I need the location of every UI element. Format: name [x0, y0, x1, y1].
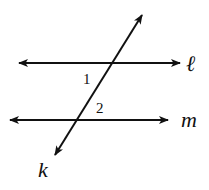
angle-2-label: 2	[96, 100, 104, 116]
line-l-label: ℓ	[186, 51, 196, 76]
transversal-k	[55, 15, 142, 155]
line-k-label: k	[38, 157, 49, 182]
parallel-lines-diagram: 1 2 ℓ m k	[0, 0, 209, 190]
angle-1-label: 1	[83, 71, 91, 87]
line-m-label: m	[181, 107, 197, 132]
